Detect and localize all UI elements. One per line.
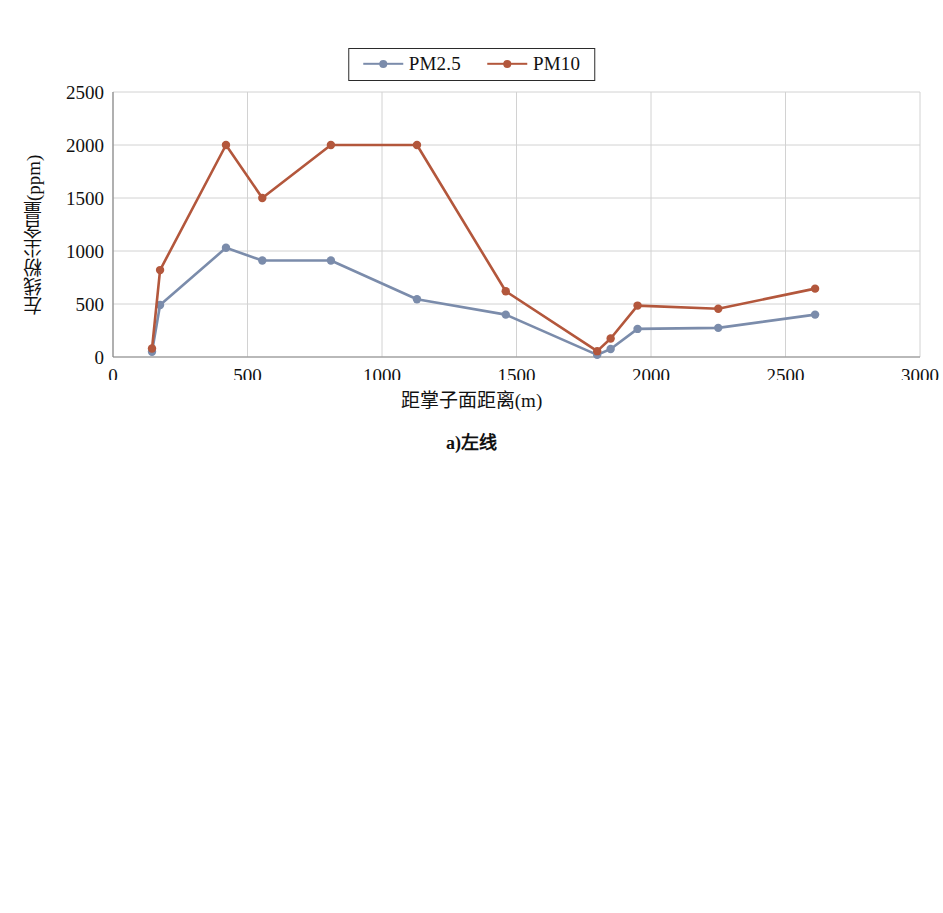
figure-b: PM2.5 PM10 右线粉尘含量(ppm) 02004006008001000… bbox=[0, 470, 943, 913]
data-point-PM2.5 bbox=[413, 295, 421, 303]
y-tick-label: 2500 bbox=[66, 82, 104, 103]
legend-label-pm25: PM2.5 bbox=[409, 53, 461, 75]
chart-legend-a: PM2.5 PM10 bbox=[348, 48, 595, 81]
data-point-PM2.5 bbox=[714, 324, 722, 332]
data-point-PM10 bbox=[811, 284, 819, 292]
legend-label-pm10: PM10 bbox=[533, 53, 580, 75]
x-tick-label: 2000 bbox=[632, 365, 670, 380]
data-point-PM10 bbox=[502, 287, 510, 295]
x-tick-label: 1500 bbox=[498, 365, 536, 380]
y-tick-label: 1500 bbox=[66, 188, 104, 209]
data-point-PM2.5 bbox=[258, 256, 266, 264]
x-axis-label-a: 距掌子面距离(m) bbox=[0, 385, 943, 412]
legend-entry-pm25-a: PM2.5 bbox=[363, 53, 461, 75]
data-point-PM10 bbox=[714, 305, 722, 313]
figure-caption-a: a)左线 bbox=[0, 428, 943, 454]
y-tick-label: 1000 bbox=[66, 241, 104, 262]
x-tick-label: 0 bbox=[108, 365, 118, 380]
plot-area-a: 0500100015002000250005001000150020002500… bbox=[0, 80, 943, 380]
data-point-PM10 bbox=[148, 344, 156, 352]
x-tick-label: 3000 bbox=[901, 365, 939, 380]
figure-a: PM2.5 PM10 左线粉尘含量(ppm) 05001000150020002… bbox=[0, 0, 943, 470]
data-point-PM10 bbox=[633, 301, 641, 309]
x-tick-label: 1000 bbox=[363, 365, 401, 380]
x-tick-label: 2500 bbox=[767, 365, 805, 380]
data-point-PM2.5 bbox=[606, 345, 614, 353]
legend-swatch-pm10-icon bbox=[487, 58, 527, 70]
chart-canvas-a: 0500100015002000250005001000150020002500… bbox=[0, 80, 943, 380]
y-tick-label: 500 bbox=[76, 294, 105, 315]
y-tick-label: 2000 bbox=[66, 135, 104, 156]
data-point-PM10 bbox=[593, 347, 601, 355]
data-point-PM2.5 bbox=[327, 256, 335, 264]
legend-entry-pm10-a: PM10 bbox=[487, 53, 580, 75]
data-point-PM2.5 bbox=[633, 325, 641, 333]
data-point-PM10 bbox=[258, 194, 266, 202]
data-point-PM2.5 bbox=[811, 310, 819, 318]
y-tick-label: 0 bbox=[95, 347, 105, 368]
data-point-PM10 bbox=[606, 334, 614, 342]
data-point-PM2.5 bbox=[222, 244, 230, 252]
data-point-PM10 bbox=[413, 141, 421, 149]
data-point-PM10 bbox=[156, 266, 164, 274]
data-point-PM2.5 bbox=[502, 310, 510, 318]
data-point-PM10 bbox=[327, 141, 335, 149]
x-tick-label: 500 bbox=[233, 365, 262, 380]
data-point-PM10 bbox=[222, 141, 230, 149]
figure-page: PM2.5 PM10 左线粉尘含量(ppm) 05001000150020002… bbox=[0, 0, 943, 913]
legend-swatch-pm25-icon bbox=[363, 58, 403, 70]
